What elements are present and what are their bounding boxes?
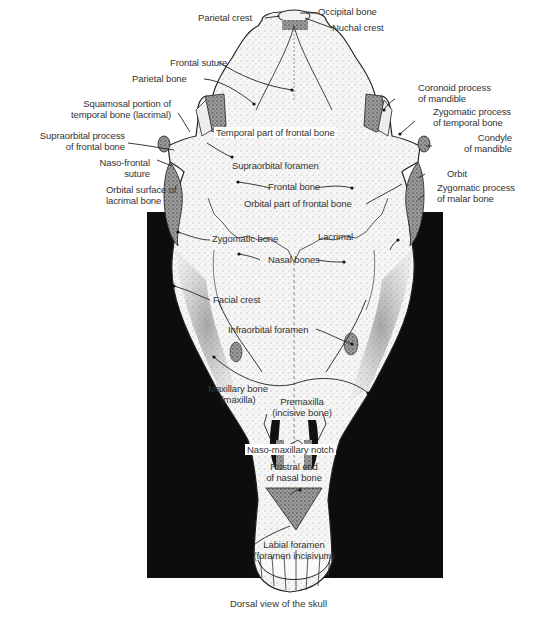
figure-caption: Dorsal view of the skull [0,598,557,609]
label-zygomatic-process-temporal: Zygomatic process of temporal bone [433,106,511,128]
label-frontal-suture: Frontal suture [170,57,227,68]
label-squamosal: Squamosal portion of temporal bone (lacr… [71,98,171,120]
label-coronoid-process: Coronoid process of mandible [418,82,491,104]
label-parietal-bone: Parietal bone [132,73,187,84]
label-temporal-part-frontal: Temporal part of frontal bone [214,127,337,138]
label-orbital-surface-lacrimal: Orbital surface of lacrimal bone [106,184,177,206]
label-rostral-end-nasal: Rostral end of nasal bone [256,461,332,483]
label-naso-frontal-suture: Naso-frontal suture [99,157,150,179]
label-facial-crest: Facial crest [213,294,260,305]
label-zygomatic-bone: Zygomatic bone [212,233,278,244]
label-infraorbital-foramen: Infraorbital foramen [228,324,308,335]
label-parietal-crest: Parietal crest [198,12,252,23]
label-maxillary-bone: Maxillary bone (maxilla) [206,383,270,405]
label-zygomatic-process-malar: Zygomatic process of malar bone [437,182,515,204]
label-supraorbital-process: Supraorbital process of frontal bone [40,130,125,152]
label-nuchal-crest: Nuchal crest [332,22,384,33]
label-naso-maxillary-notch: Naso-maxillary notch [245,444,336,455]
label-orbital-part-frontal: Orbital part of frontal bone [244,198,352,209]
label-premaxilla: Premaxilla (incisive bone) [264,396,340,418]
label-nasal-bones: Nasal bones [268,254,320,265]
label-lacrimal: Lacrimal [318,231,353,242]
label-labial-foramen: Labial foramen (foramen incisivum) [246,539,342,561]
label-orbit: Orbit [447,168,467,179]
label-supraorbital-foramen: Supraorbital foramen [232,160,319,171]
label-frontal-bone: Frontal bone [268,181,320,192]
label-condyle: Condyle of mandible [450,132,512,154]
label-occipital-bone: Occipital bone [318,6,377,17]
skull-diagram: Occipital bone Nuchal crest Parietal cre… [0,0,557,625]
